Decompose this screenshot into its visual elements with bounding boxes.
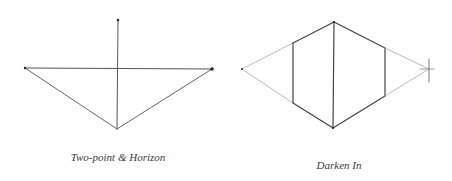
vanishing-point (333, 21, 335, 23)
caption-darken-in: Darken In (317, 159, 362, 171)
construction-line (293, 22, 334, 43)
darken-in-figure (241, 21, 434, 129)
construction-line (117, 20, 118, 129)
construction-line (242, 43, 293, 69)
construction-line (385, 69, 429, 96)
caption-two-point-horizon: Two-point & Horizon (71, 151, 166, 163)
construction-line (25, 68, 212, 69)
construction-line (385, 48, 429, 69)
construction-line (242, 69, 293, 103)
construction-line (333, 96, 385, 128)
vanishing-point (332, 127, 334, 129)
diagram-canvas (0, 0, 452, 181)
vanishing-point (24, 67, 26, 69)
construction-line (117, 69, 212, 129)
construction-line (293, 103, 333, 128)
vanishing-point (117, 19, 119, 21)
construction-line (25, 68, 117, 129)
vanishing-point (241, 68, 243, 70)
construction-line (333, 22, 334, 128)
two-point-horizon-figure (24, 19, 214, 129)
construction-line (334, 22, 385, 48)
vanishing-point (210, 67, 214, 71)
